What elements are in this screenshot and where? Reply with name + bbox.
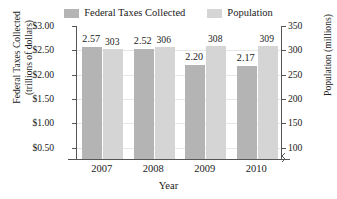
x-axis-line xyxy=(68,159,290,160)
y-axis-left-tick xyxy=(72,99,77,100)
y-axis-right-tick-label: 350 xyxy=(288,21,318,31)
legend-label-federal-taxes: Federal Taxes Collected xyxy=(84,8,185,19)
y-axis-left-tick xyxy=(72,148,77,149)
y-axis-left-tick-label: $2.50 xyxy=(6,45,54,55)
data-label-population: 303 xyxy=(97,37,127,47)
data-label-population: 306 xyxy=(149,35,179,45)
chart-legend: Federal Taxes Collected Population xyxy=(0,6,337,20)
legend-label-population: Population xyxy=(227,8,273,19)
y-axis-left-tick-label: $0.50 xyxy=(6,143,54,153)
y-axis-left-tick-label: $3.00 xyxy=(6,21,54,31)
bar-population[interactable] xyxy=(258,46,278,160)
bar-chart: Federal Taxes Collected Population Feder… xyxy=(0,0,337,199)
data-label-population: 309 xyxy=(252,34,282,44)
y-axis-left-tick xyxy=(72,50,77,51)
y-axis-right-tick-label: 250 xyxy=(288,70,318,80)
bar-group xyxy=(134,26,175,160)
legend-item-population: Population xyxy=(207,8,273,19)
y-axis-right-title: Population (millions) xyxy=(323,0,333,115)
bar-federal-taxes[interactable] xyxy=(82,47,102,160)
bar-federal-taxes[interactable] xyxy=(185,65,205,160)
y-axis-left-tick-label: $2.00 xyxy=(6,70,54,80)
y-axis-right-tick xyxy=(281,50,286,51)
data-label-federal-taxes: 2.20 xyxy=(179,52,209,62)
bar-population[interactable] xyxy=(155,47,175,160)
x-axis-title: Year xyxy=(0,180,337,191)
y-axis-left-tick-label: $1.50 xyxy=(6,94,54,104)
bar-group xyxy=(237,26,278,160)
data-label-federal-taxes: 2.17 xyxy=(231,53,261,63)
y-axis-right-tick-label: 100 xyxy=(288,143,318,153)
y-axis-right-tick-label: 200 xyxy=(288,94,318,104)
y-axis-left-tick xyxy=(72,26,77,27)
data-label-population: 308 xyxy=(200,34,230,44)
y-axis-right-tick xyxy=(281,99,286,100)
y-axis-left-tick xyxy=(72,123,77,124)
y-axis-left-tick-label: $1.00 xyxy=(6,118,54,128)
y-axis-right-tick xyxy=(281,123,286,124)
y-axis-right-tick xyxy=(281,75,286,76)
bar-group xyxy=(185,26,226,160)
y-axis-left-tick xyxy=(72,75,77,76)
bar-population[interactable] xyxy=(206,46,226,160)
bar-population[interactable] xyxy=(103,49,123,160)
y-axis-right-tick xyxy=(281,26,286,27)
legend-swatch-population xyxy=(207,9,222,18)
y-axis-right-tick xyxy=(281,148,286,149)
x-axis-tick-label: 2010 xyxy=(226,163,286,174)
legend-item-federal-taxes: Federal Taxes Collected xyxy=(64,8,185,19)
bar-federal-taxes[interactable] xyxy=(237,66,257,160)
bar-federal-taxes[interactable] xyxy=(134,49,154,160)
y-axis-right-tick-label: 300 xyxy=(288,45,318,55)
legend-swatch-federal-taxes xyxy=(64,9,79,18)
y-axis-right-tick-label: 150 xyxy=(288,118,318,128)
